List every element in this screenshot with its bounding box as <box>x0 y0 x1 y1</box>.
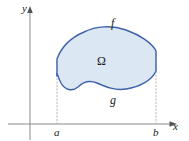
region-omega-shape <box>57 27 156 90</box>
x-axis-label: x <box>173 121 178 132</box>
tick-label-b: b <box>153 127 159 138</box>
curve-label-g: g <box>110 94 116 106</box>
y-axis-arrowhead <box>27 6 33 13</box>
figure-canvas <box>0 0 189 141</box>
curve-label-f: f <box>111 17 114 29</box>
math-figure: y x f g Ω a b <box>0 0 189 141</box>
region-label-omega: Ω <box>97 55 106 67</box>
tick-label-a: a <box>54 127 60 138</box>
y-axis-label: y <box>22 3 27 14</box>
